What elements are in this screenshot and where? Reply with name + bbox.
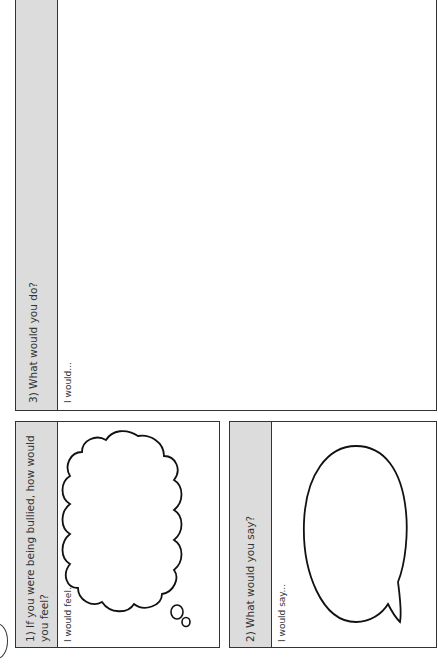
- question-3-prompt: I would...: [63, 362, 73, 403]
- page-number-badge: [0, 623, 8, 659]
- question-3-text: 3) What would you do?: [26, 282, 40, 403]
- question-3-answer-area[interactable]: [76, 0, 436, 410]
- question-2-answer-area[interactable]: [290, 422, 436, 647]
- question-2-panel: 2) What would you say? I would say...: [229, 421, 437, 648]
- question-1-panel: 1) If you were being bullied, how would …: [15, 421, 220, 648]
- question-1-answer-area[interactable]: [76, 422, 219, 647]
- question-3-header: 3) What would you do?: [16, 0, 58, 410]
- question-3-panel: 3) What would you do? I would...: [15, 0, 437, 411]
